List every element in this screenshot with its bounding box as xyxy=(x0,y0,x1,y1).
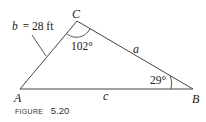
angle-label-c: 102° xyxy=(71,40,93,52)
side-label-b: b = 28 ft xyxy=(12,20,54,32)
side-label-c: c xyxy=(103,89,109,103)
vertex-label-b: B xyxy=(192,92,200,106)
vertex-label-a: A xyxy=(13,91,22,105)
figure-caption-prefix: FIGURE xyxy=(15,108,43,115)
side-b-leader xyxy=(32,35,46,56)
figure-caption: FIGURE 5.20 xyxy=(15,100,69,117)
side-b-variable: b xyxy=(12,20,18,32)
angle-label-b: 29° xyxy=(150,74,167,86)
triangle-diagram: C A B b = 28 ft a c 102° 29° FIGURE 5.20 xyxy=(0,0,206,122)
side-b-value: = 28 ft xyxy=(23,20,55,32)
side-label-a: a xyxy=(133,42,139,56)
vertex-label-c: C xyxy=(72,7,81,21)
figure-caption-number: 5.20 xyxy=(51,105,70,116)
angle-arc-b xyxy=(170,76,172,90)
